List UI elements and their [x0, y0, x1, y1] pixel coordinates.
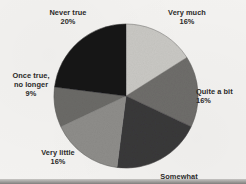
pie-label-once-true-line1: Once true, [12, 71, 49, 80]
scan-bottom-edge [0, 179, 246, 184]
pie-label-very-much-text: Very much [168, 8, 206, 17]
pie-slice-never-true [55, 24, 126, 96]
pie-label-very-much: Very much 16% [156, 8, 218, 26]
pie-label-once-true-percent: 9% [2, 89, 60, 98]
pie-label-quite-a-bit-text: Quite a bit [196, 87, 233, 96]
pie-label-quite-a-bit: Quite a bit 16% [196, 87, 246, 105]
pie-label-very-little-text: Very little [41, 148, 74, 157]
pie-chart-figure: Very much 16% Quite a bit 16% Somewhat V… [0, 0, 246, 184]
pie-label-quite-a-bit-percent: 16% [196, 96, 246, 105]
pie-label-very-little: Very little 16% [28, 148, 88, 166]
pie-label-never-true-text: Never true [49, 8, 86, 17]
pie-label-very-little-percent: 16% [28, 157, 88, 166]
pie-label-never-true-percent: 20% [36, 17, 100, 26]
pie-label-once-true-no-longer: Once true, no longer 9% [2, 71, 60, 99]
pie-label-very-much-percent: 16% [156, 17, 218, 26]
pie-label-once-true-line2: no longer [14, 80, 48, 89]
pie-label-never-true: Never true 20% [36, 8, 100, 26]
